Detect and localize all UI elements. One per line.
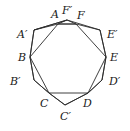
inner-hexagon: [30, 24, 106, 93]
label-D: D: [82, 97, 92, 110]
intermediate-lines-right: [76, 24, 106, 93]
label-B-prime: B′: [9, 75, 21, 88]
label-B: B: [17, 51, 26, 64]
outer-hexagon: [30, 20, 106, 105]
label-E-prime: E′: [106, 28, 118, 41]
label-A: A: [50, 8, 59, 21]
label-E: E: [109, 51, 118, 64]
label-C: C: [40, 97, 49, 110]
label-A-prime: A′: [16, 28, 28, 41]
label-C-prime: C′: [60, 110, 71, 123]
label-F: F: [76, 9, 85, 22]
label-F-prime: F′: [61, 4, 73, 17]
hexagon-diagram: A F′ F A′ E′ B E B′ D′ C D C′: [0, 0, 130, 131]
label-D-prime: D′: [108, 75, 121, 88]
